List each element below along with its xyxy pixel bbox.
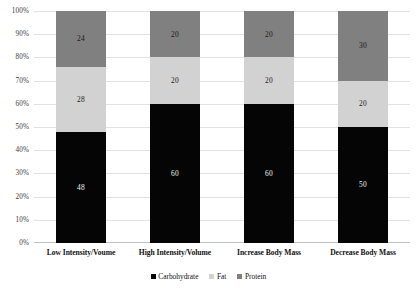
bar-segment-protein[interactable]: 20 [244,11,294,57]
y-axis-tick-label: 20% [16,193,29,201]
legend-item[interactable]: Carbohydrate [151,272,199,281]
bar-group: 302050 [338,11,388,243]
y-axis-tick-label: 0% [19,239,29,247]
bar-value-label: 60 [171,169,179,178]
bar-segment-protein[interactable]: 30 [338,11,388,81]
bar-value-label: 60 [265,169,273,178]
bar-value-label: 20 [265,30,273,39]
legend-item[interactable]: Protein [237,272,266,281]
bar-segment-carbohydrate[interactable]: 48 [56,132,106,243]
bar-value-label: 48 [77,183,85,192]
bar-value-label: 28 [77,95,85,104]
stacked-bar[interactable]: 302050 [338,11,388,243]
legend-label: Fat [217,272,226,281]
y-axis-tick-label: 30% [16,169,29,177]
bar-value-label: 30 [359,41,367,50]
y-axis-tick-label: 50% [16,123,29,131]
y-axis-tick-label: 60% [16,100,29,108]
x-axis-label: High Intensity/Volume [128,248,222,257]
x-axis-label: Decrease Body Mass [316,248,410,257]
bar-segment-carbohydrate[interactable]: 60 [150,104,200,243]
bar-group: 242848 [56,11,106,243]
x-axis-labels: Low Intensity/VoumeHigh Intensity/Volume… [34,248,410,262]
y-axis-tick-label: 80% [16,53,29,61]
bar-segment-fat[interactable]: 20 [150,57,200,103]
legend-item[interactable]: Fat [209,272,226,281]
y-axis-tick-label: 40% [16,146,29,154]
x-axis-label: Increase Body Mass [222,248,316,257]
bar-segment-carbohydrate[interactable]: 50 [338,127,388,243]
bar-series-container: 242848202060202060302050 [34,11,410,243]
bar-segment-carbohydrate[interactable]: 60 [244,104,294,243]
stacked-bar[interactable]: 202060 [244,11,294,243]
bar-segment-fat[interactable]: 20 [244,57,294,103]
legend-label: Protein [245,272,266,281]
y-axis-tick-label: 10% [16,216,29,224]
bar-value-label: 24 [77,34,85,43]
stacked-bar[interactable]: 242848 [56,11,106,243]
bar-value-label: 20 [171,30,179,39]
legend-label: Carbohydrate [158,272,198,281]
chart-legend: CarbohydrateFatProtein [0,272,417,281]
x-axis-label: Low Intensity/Voume [34,248,128,257]
bar-value-label: 20 [171,76,179,85]
bar-value-label: 50 [359,180,367,189]
y-axis-tick-label: 70% [16,77,29,85]
legend-swatch-fat [209,274,214,279]
bar-segment-fat[interactable]: 28 [56,67,106,132]
stacked-bar-chart: 0%10%20%30%40%50%60%70%80%90%100% 242848… [0,0,417,290]
bar-value-label: 20 [359,99,367,108]
bar-segment-protein[interactable]: 20 [150,11,200,57]
bar-group: 202060 [244,11,294,243]
bar-segment-protein[interactable]: 24 [56,11,106,67]
bar-group: 202060 [150,11,200,243]
y-axis: 0%10%20%30%40%50%60%70%80%90%100% [0,11,34,243]
y-axis-tick-label: 100% [12,7,29,15]
bar-segment-fat[interactable]: 20 [338,81,388,127]
bar-value-label: 20 [265,76,273,85]
y-axis-tick-label: 90% [16,30,29,38]
plot-area: 242848202060202060302050 [34,11,410,243]
legend-swatch-carbohydrate [151,274,156,279]
stacked-bar[interactable]: 202060 [150,11,200,243]
legend-swatch-protein [237,274,242,279]
